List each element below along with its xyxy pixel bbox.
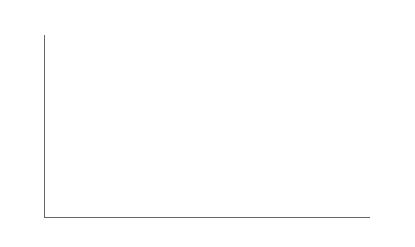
plot-area xyxy=(0,0,415,247)
chart-root xyxy=(0,0,415,247)
